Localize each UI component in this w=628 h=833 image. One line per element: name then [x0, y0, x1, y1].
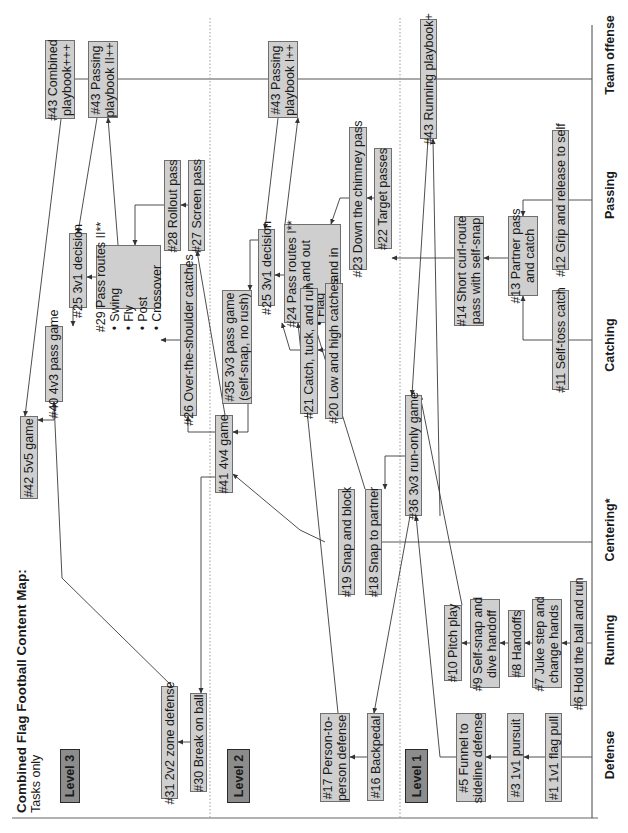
box-label-line: #36 3v3 run-only game — [407, 392, 421, 520]
task-box-t13-partner-pass: #13 Partner passand catch — [508, 216, 538, 296]
box-label: #8 Handoffs — [510, 610, 524, 677]
box-label: #16 Backpedal — [369, 716, 383, 799]
task-box-t22-target-passes: #22 Target passes — [374, 148, 392, 249]
box-label-line: #16 Backpedal — [369, 716, 383, 799]
box-label-line: #43 Passing — [269, 44, 283, 116]
box-label: #40 4v3 pass game — [47, 309, 61, 418]
box-label-line: #9 Self-snap and — [471, 596, 485, 691]
box-label: #19 Snap and block — [340, 487, 354, 598]
task-box-t41-4v4-game: #41 4v4 game — [215, 415, 233, 493]
task-box-t19-snap-and-block: #19 Snap and block — [338, 489, 355, 595]
task-box-t17-person-to-person: #17 Person-to-person defense — [320, 713, 350, 802]
arrow-connector — [54, 402, 176, 690]
arrow-connector — [197, 251, 225, 415]
box-label-line: #20 Low and high catches — [327, 278, 341, 423]
arrow-connector — [385, 456, 405, 489]
box-label-line: #27 Screen pass — [190, 159, 204, 253]
box-label: #43 Running playbook+ — [422, 13, 436, 145]
box-label: #43 Passingplaybook I++ — [269, 44, 297, 116]
task-box-t43-running-playbook: #43 Running playbook+ — [420, 19, 437, 139]
box-label: #1 1v1 flag pull — [547, 715, 561, 799]
box-label-line: change hands — [547, 596, 561, 691]
box-label-line: #13 Partner pass — [509, 208, 523, 303]
box-label-line: #26 Over-the-shoulder catches — [182, 254, 196, 426]
box-label: #14 Short curl-routepass with self-snap — [455, 216, 483, 326]
box-label-line: and catch — [523, 208, 537, 303]
box-label: #25 3v1 decision — [71, 224, 85, 318]
task-box-t14-short-curl-route: #14 Short curl-routepass with self-snap — [454, 216, 484, 326]
map-title: Combined Flag Football Content Map: Task… — [14, 569, 43, 813]
task-box-t43-combined: #43 Combinedplaybook+++ — [45, 40, 75, 119]
map-title-main: Combined Flag Football Content Map: — [14, 569, 29, 813]
box-label-line: #19 Snap and block — [340, 487, 354, 598]
category-label-catching: Catching — [603, 318, 617, 371]
arrow-connector — [285, 118, 298, 224]
box-label: #43 Passingplaybook II++ — [89, 42, 117, 117]
task-box-t16-backpedal: #16 Backpedal — [367, 713, 384, 801]
box-label-line: #41 4v4 game — [217, 414, 231, 493]
box-label-line: #29 Pass routes II** — [94, 222, 108, 332]
box-label: #7 Juke step andchange hands — [533, 596, 561, 691]
box-label-line: sideline defense — [471, 712, 485, 802]
task-box-t10-pitch-play: #10 Pitch play — [444, 605, 462, 681]
arrow-connector — [233, 474, 325, 542]
arrow-connector — [420, 395, 462, 605]
task-box-t43-passing-2: #43 Passingplaybook II++ — [88, 41, 118, 118]
box-label-line: #43 Running playbook+ — [422, 13, 436, 145]
box-label-line: #17 Person-to- — [321, 714, 335, 800]
route-list: SwingFlyPostCrossover — [108, 222, 164, 332]
box-label: #25 3v1 decision — [260, 221, 274, 315]
box-label: #26 Over-the-shoulder catches — [182, 254, 196, 426]
box-label-line: #12 Grip and release to self — [554, 123, 568, 277]
route-item: Crossover — [150, 222, 164, 320]
task-box-t42-5v5-game: #42 5v5 game — [20, 416, 38, 499]
content-map-canvas: Combined Flag Football Content Map: Task… — [0, 0, 628, 833]
box-label: #23 Down the chimney pass — [351, 120, 365, 277]
task-box-t1-1v1-flag-pull: #1 1v1 flag pull — [545, 713, 562, 802]
box-label: #12 Grip and release to self — [554, 123, 568, 277]
box-label: #30 Break on ball — [192, 694, 206, 791]
box-label-line: #14 Short curl-route — [455, 216, 469, 326]
map-title-sub: Tasks only — [29, 569, 43, 813]
box-label: Level 1 — [410, 755, 424, 797]
task-box-t7-juke-step: #7 Juke step andchange hands — [532, 599, 562, 688]
category-label-running: Running — [603, 615, 617, 666]
box-label-line: #5 Funnel to — [457, 712, 471, 802]
box-label: #13 Partner passand catch — [509, 208, 537, 303]
box-label: #43 Combinedplaybook+++ — [46, 39, 74, 120]
box-label: #41 4v4 game — [217, 414, 231, 493]
box-label-line: #28 Rollout pass — [166, 159, 180, 252]
arrow-connector — [233, 404, 248, 432]
box-label-line: #43 Passing — [89, 42, 103, 117]
task-box-t11-self-toss-catch: #11 Self-toss catch — [552, 290, 569, 390]
task-box-t6-hold-ball-run: #6 Hold the ball and run — [570, 581, 587, 706]
box-label-line: #25 3v1 decision — [71, 224, 85, 318]
task-box-t5-funnel-sideline: #5 Funnel tosideline defense — [456, 713, 486, 802]
task-box-t28-rollout-pass: #28 Rollout pass — [164, 160, 181, 251]
box-label-line: #18 Snap to partner — [367, 487, 381, 598]
box-label-line: #21 Catch, tuck, and run — [302, 283, 316, 419]
box-label-line: #6 Hold the ball and run — [572, 577, 586, 710]
box-label-line: #25 3v1 decision — [260, 221, 274, 315]
task-box-t9-self-snap-dive: #9 Self-snap anddive handoff — [470, 599, 500, 688]
task-box-t35-3v3-pass-game: #35 3v3 pass game(self-snap, no rush) — [222, 290, 252, 404]
box-label: #22 Target passes — [376, 148, 390, 250]
box-label: Level 3 — [63, 755, 77, 797]
task-box-t3-1v1-pursuit: #3 1v1 pursuit — [507, 713, 524, 802]
box-label-line: #43 Combined — [46, 39, 60, 120]
box-label: #18 Snap to partner — [367, 487, 381, 598]
box-label-line: playbook+++ — [60, 39, 74, 120]
box-label-line: playbook II++ — [103, 42, 117, 117]
box-label: #5 Funnel tosideline defense — [457, 712, 485, 802]
box-label: #10 Pitch play — [446, 604, 460, 683]
box-label: #31 2v2 zone defense — [163, 681, 177, 804]
box-label-line: #35 3v3 pass game — [223, 292, 237, 401]
box-label-line: (self-snap, no rush) — [237, 292, 251, 401]
task-box-t12-grip-and-release: #12 Grip and release to self — [552, 130, 569, 270]
box-label-line: playbook I++ — [283, 44, 297, 116]
box-label: #3 1v1 pursuit — [509, 718, 523, 797]
box-label-line: #40 4v3 pass game — [47, 309, 61, 418]
task-box-t36-3v3-run-only: #36 3v3 run-only game — [405, 395, 422, 516]
box-label-line: #30 Break on ball — [192, 694, 206, 791]
level-badge-level-3: Level 3 — [60, 749, 80, 803]
